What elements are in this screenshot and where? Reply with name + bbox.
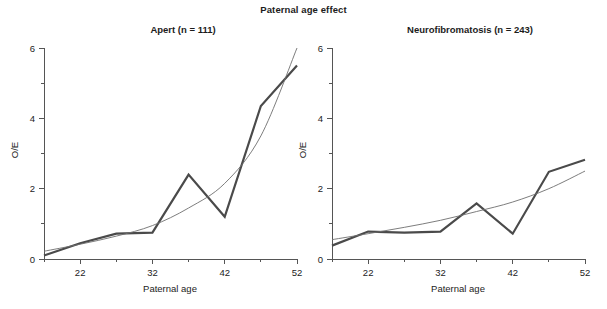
y-tick-label: 6 <box>318 43 323 54</box>
x-tick-label: 52 <box>580 267 591 278</box>
series-line-observed <box>332 160 585 246</box>
y-axis-title: O/E <box>297 142 308 158</box>
y-tick-label: 0 <box>318 254 323 265</box>
figure-canvas: Paternal age effect Apert (n = 111) Neur… <box>0 0 607 309</box>
chart-panel-neurofibromatosis: 024622324252Paternal ageO/E <box>0 0 607 309</box>
x-tick-label: 32 <box>435 267 446 278</box>
y-tick-label: 2 <box>318 183 323 194</box>
x-tick-label: 22 <box>363 267 374 278</box>
series-line-fitted <box>332 171 585 240</box>
y-tick-label: 4 <box>318 113 323 124</box>
x-axis-title: Paternal age <box>431 283 485 294</box>
x-tick-label: 42 <box>507 267 518 278</box>
